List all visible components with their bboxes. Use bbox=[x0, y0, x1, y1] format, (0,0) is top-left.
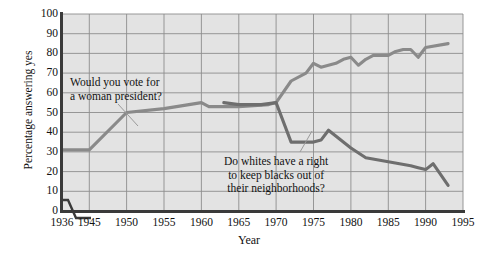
annotation-leader-lines bbox=[0, 0, 498, 256]
chart-figure: 0102030405060708090100 19361945195019551… bbox=[0, 0, 498, 256]
